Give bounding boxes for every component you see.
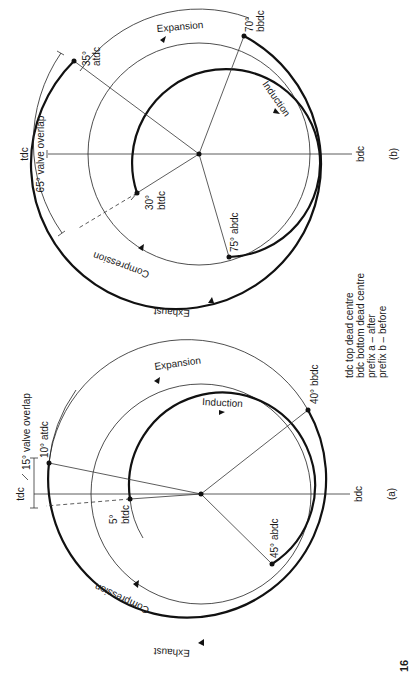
exhaust-arrow-icon — [208, 297, 214, 303]
exhaust-closes-dot — [72, 59, 77, 64]
inlet-closes-dot — [227, 255, 232, 260]
exhaust-opens-label: 40° bbdc — [309, 364, 320, 404]
exhaust-opens-dot — [242, 34, 247, 39]
inlet-opens-ref: btdc — [156, 191, 167, 210]
exhaust-opens-deg: 70° — [244, 17, 255, 32]
compression-arrow-icon — [138, 244, 144, 251]
overlap-label: 15° valve overlap — [21, 393, 32, 470]
legend-line-tdc: tdc top dead centre — [344, 292, 355, 378]
inlet-closes-label: 75° abdc — [229, 212, 240, 252]
figure-label-a: (a) — [386, 488, 397, 500]
inlet-opens-dot — [128, 497, 133, 502]
inlet-opens-dot — [135, 191, 140, 196]
exhaust-arrow-icon — [198, 639, 204, 646]
diagram-a: tdc 15° valve overlap bdc (a) 10° atdc 4… — [15, 340, 397, 659]
exhaust-closes-ref: atdc — [91, 47, 102, 66]
exhaust-opens-dot — [306, 408, 311, 413]
radius-35-atdc — [74, 61, 199, 154]
exhaust-closes-dot — [47, 461, 52, 466]
radius-5-btdc — [130, 494, 201, 499]
radius-45-abdc — [201, 494, 272, 564]
induction-arrow-icon — [219, 410, 225, 415]
radius-5-btdc-dashed — [46, 499, 130, 506]
centre-dot — [199, 492, 204, 497]
exhaust-opens-ref: bbdc — [255, 10, 266, 32]
valve-timing-figure: tdc 65° valve overlap bdc (b) 35° atdc 7… — [0, 0, 414, 679]
tdc-label: tdc — [19, 147, 30, 160]
radius-40-bbdc — [201, 410, 308, 494]
inlet-closes-dot — [270, 562, 275, 567]
legend-line-prefix-b: prefix b – before — [377, 305, 388, 378]
bdc-label: bdc — [355, 146, 366, 162]
expansion-label: Expansion — [156, 19, 203, 34]
radius-30-btdc — [137, 154, 199, 193]
exhaust-label: Exhaust — [153, 306, 190, 319]
radius-75-abdc — [199, 154, 229, 257]
radius-10-atdc — [49, 463, 201, 494]
diagram-b: tdc 65° valve overlap bdc (b) 35° atdc 7… — [19, 9, 399, 319]
overlap-leader — [22, 474, 28, 480]
centre-dot — [197, 152, 202, 157]
inlet-opens-deg: 5° — [108, 514, 119, 524]
induction-arc — [129, 393, 315, 564]
inlet-opens-deg: 30° — [144, 195, 155, 210]
expansion-arrow-icon — [160, 36, 166, 43]
exhaust-arc — [31, 36, 321, 309]
induction-arc-tail — [130, 499, 143, 538]
legend-line-bdc: bdc bottom dead centre — [355, 272, 366, 378]
inlet-opens-ref: btdc — [120, 505, 131, 524]
radius-70-bbdc — [199, 36, 244, 154]
overlap-label: 65° valve overlap — [35, 115, 46, 192]
exhaust-closes-label: 10° atdc — [39, 421, 50, 458]
figure-label-b: (b) — [388, 148, 399, 160]
exhaust-arc — [48, 410, 326, 618]
tdc-label: tdc — [15, 487, 26, 500]
expansion-label: Expansion — [154, 355, 202, 372]
expansion-arrow-icon — [154, 377, 160, 384]
legend: tdc top dead centre bdc bottom dead cent… — [344, 272, 388, 378]
induction-label: Induction — [202, 396, 243, 409]
bdc-label: bdc — [353, 486, 364, 502]
radius-30-btdc-dashed — [77, 193, 137, 229]
compression-label: Compression — [92, 250, 151, 280]
exhaust-label: Exhaust — [153, 646, 190, 659]
legend-line-prefix-a: prefix a – after — [366, 313, 377, 378]
induction-arc — [132, 69, 320, 257]
inlet-closes-label: 45° abdc — [269, 518, 280, 558]
page-number: 16 — [398, 660, 410, 672]
